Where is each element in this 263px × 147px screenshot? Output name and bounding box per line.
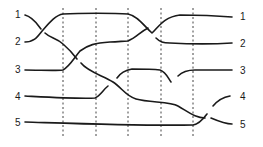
right-label-2: 2 [240, 38, 246, 49]
right-label-5: 5 [240, 119, 246, 130]
left-label-4: 4 [15, 91, 21, 102]
right-label-4: 4 [240, 91, 246, 102]
braid-diagram: 1 2 3 4 5 1 2 3 4 5 [0, 0, 263, 147]
right-label-3: 3 [240, 65, 246, 76]
left-label-1: 1 [15, 9, 21, 20]
left-label-3: 3 [15, 64, 21, 75]
right-label-1: 1 [240, 11, 246, 22]
left-label-5: 5 [15, 117, 21, 128]
left-label-2: 2 [15, 36, 21, 47]
